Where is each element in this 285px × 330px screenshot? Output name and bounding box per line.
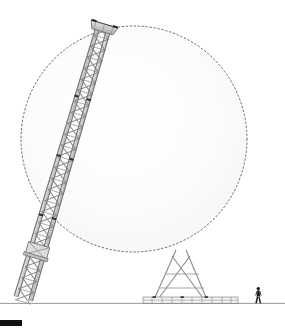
mast-elevation-svg — [0, 0, 285, 330]
human-scale-figure — [255, 287, 261, 303]
base-rail-frame — [143, 296, 238, 303]
base-a-frame-legs — [153, 250, 208, 302]
drawing-canvas: Tilting lattice mast elevation with rota… — [0, 0, 285, 330]
page-corner-registration-mark — [0, 320, 22, 326]
